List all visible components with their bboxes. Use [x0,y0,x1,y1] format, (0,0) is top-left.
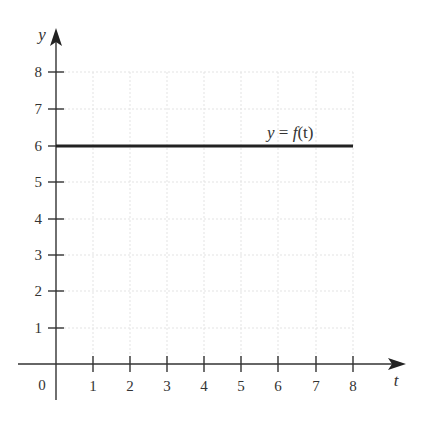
function-graph: 1 2 3 4 5 6 7 8 t 1 2 3 4 5 [0,0,431,423]
y-tick-label: 5 [35,174,43,190]
annotation-y: y [265,123,275,142]
y-tick-label: 6 [35,138,43,154]
annotation-arg: (t) [297,123,313,142]
y-axis-label: y [36,25,46,44]
x-axis-label: t [394,371,400,390]
x-tick-label: 1 [89,378,97,394]
function-annotation: y = f(t) [265,123,313,142]
y-tick-labels: 1 2 3 4 5 6 7 8 [35,64,43,336]
x-tick-label: 2 [126,378,134,394]
x-axis: 1 2 3 4 5 6 7 8 t [18,356,406,394]
x-tick-label: 7 [312,378,320,394]
x-tick-label: 6 [274,378,282,394]
y-axis: 1 2 3 4 5 6 7 8 y [35,25,65,400]
x-tick-label: 5 [237,378,245,394]
y-tick-label: 2 [35,283,43,299]
x-tick-label: 8 [349,378,357,394]
y-tick-label: 1 [35,320,43,336]
y-tick-label: 4 [35,211,43,227]
x-tick-labels: 1 2 3 4 5 6 7 8 [89,378,357,394]
grid [56,72,353,364]
y-tick-label: 3 [35,247,43,263]
x-tick-label: 4 [200,378,208,394]
x-tick-label: 3 [163,378,171,394]
annotation-equals: = [275,123,293,142]
y-tick-label: 7 [35,101,43,117]
origin-label: 0 [38,377,46,393]
y-tick-label: 8 [35,64,43,80]
